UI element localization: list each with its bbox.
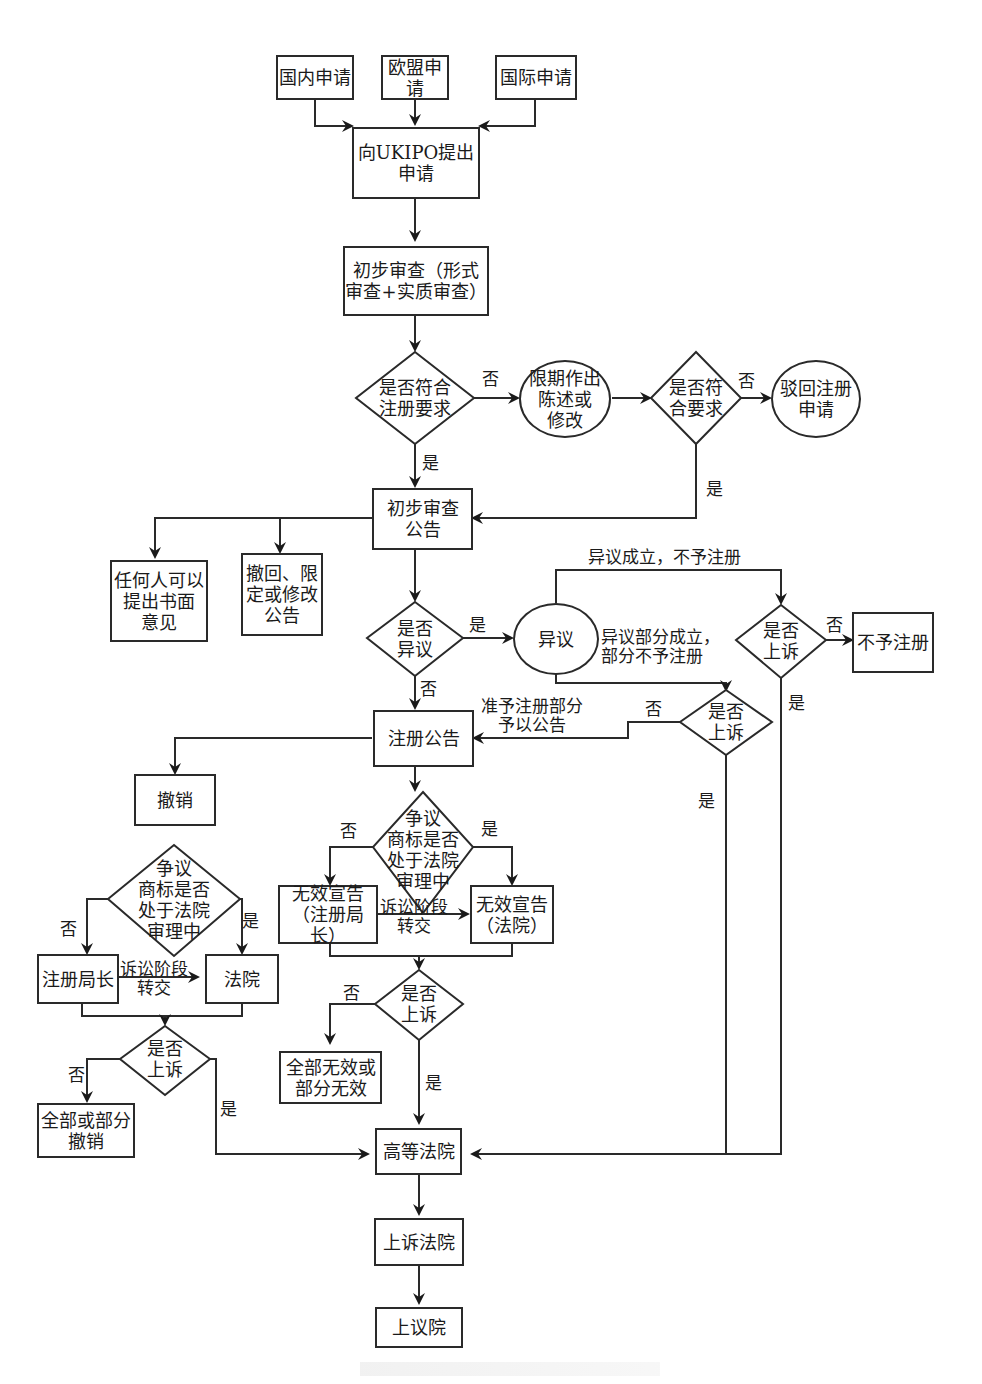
edge-label-yes: 是 — [698, 792, 715, 811]
node-file-with-ukipo: 向UKIPO提出 申请 — [352, 127, 480, 199]
edge-label-no: 否 — [738, 372, 755, 391]
edge-label-yes: 是 — [425, 1074, 442, 1093]
node-invalidity-court: 无效宣告 （法院） — [470, 885, 554, 944]
node-registration-notice: 注册公告 — [373, 710, 474, 767]
node-registrar: 注册局长 — [37, 954, 119, 1004]
node-all-or-partial-revocation: 全部或部分 撤销 — [37, 1103, 135, 1158]
label-meets-requirements-2: 是否符 合要求 — [656, 374, 736, 422]
edge-label-yes: 是 — [788, 694, 805, 713]
node-anyone-written-opinion: 任何人可以 提出书面 意见 — [110, 560, 208, 642]
label-appeal-3: 是否 上诉 — [386, 982, 452, 1026]
figure-caption-illegible — [360, 1362, 660, 1376]
edge-label-no: 否 — [68, 1066, 85, 1085]
edge-label-opposition-upheld: 异议成立，不予注册 — [588, 548, 741, 567]
edge-label-no: 否 — [60, 920, 77, 939]
edge-label-litigation-transfer: 诉讼阶段 转交 — [380, 898, 448, 936]
label-meets-requirements: 是否符合 注册要求 — [366, 374, 464, 422]
edge-label-yes: 是 — [422, 454, 439, 473]
node-opposition: 异议 — [513, 603, 599, 675]
edge-label-yes: 是 — [706, 480, 723, 499]
edge-label-no: 否 — [420, 680, 437, 699]
edge-label-yes: 是 — [481, 820, 498, 839]
edge-label-yes: 是 — [242, 912, 259, 931]
label-appeal-1: 是否 上诉 — [746, 618, 816, 664]
node-invalidity-registrar: 无效宣告 （注册局长） — [278, 885, 378, 944]
node-house-of-lords: 上议院 — [375, 1307, 463, 1348]
node-withdraw-limit-amend-notice: 撤回、限 定或修改 公告 — [241, 553, 323, 636]
node-deadline-reply: 限期作出 陈述或 修改 — [519, 360, 611, 438]
node-international-application: 国际申请 — [495, 55, 577, 100]
node-refuse-registration: 不予注册 — [852, 612, 934, 673]
edge-label-no: 否 — [340, 822, 357, 841]
edge-label-litigation-transfer: 诉讼阶段 转交 — [120, 960, 188, 998]
edge-label-no: 否 — [482, 370, 499, 389]
node-court-of-appeal: 上诉法院 — [374, 1218, 464, 1266]
node-domestic-application: 国内申请 — [276, 55, 354, 100]
flowchart-connectors — [0, 0, 982, 1384]
label-appeal-2: 是否 上诉 — [694, 700, 758, 744]
node-reject-application: 驳回注册 申请 — [771, 360, 861, 438]
label-in-court-right: 争议 商标是否 处于法院 审理中 — [378, 806, 468, 894]
edge-label-partial-registration-notice: 准予注册部分 予以公告 — [481, 697, 583, 735]
edge-label-opposition-partial: 异议部分成立， 部分不予注册 — [601, 628, 720, 666]
edge-label-no: 否 — [343, 984, 360, 1003]
node-high-court: 高等法院 — [375, 1128, 462, 1175]
edge-label-no: 否 — [645, 700, 662, 719]
edge-label-yes: 是 — [469, 616, 486, 635]
node-eu-application: 欧盟申请 — [381, 55, 449, 100]
node-court: 法院 — [205, 954, 279, 1004]
label-opposed: 是否 异议 — [380, 616, 450, 662]
edge-label-no: 否 — [826, 616, 843, 635]
node-all-or-partial-invalid: 全部无效或 部分无效 — [279, 1051, 382, 1104]
node-revocation: 撤销 — [134, 774, 216, 826]
edge-label-yes: 是 — [220, 1100, 237, 1119]
label-appeal-4: 是否 上诉 — [132, 1037, 198, 1081]
node-preliminary-examination: 初步审查（形式 审查+实质审查） — [343, 246, 489, 316]
label-in-court-left: 争议 商标是否 处于法院 审理中 — [128, 856, 220, 944]
node-preliminary-notice: 初步审查 公告 — [372, 488, 473, 550]
